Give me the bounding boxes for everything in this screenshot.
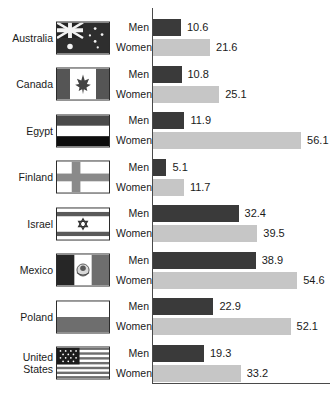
bar-women	[153, 318, 291, 335]
series-label-women: Women	[116, 272, 149, 289]
bar-value-women: 52.1	[297, 318, 318, 335]
bar-value-men: 38.9	[262, 252, 283, 269]
chart-row: IsraelMen32.4Women39.5	[0, 200, 332, 247]
series-label-men: Men	[116, 112, 149, 129]
chart-row: EgyptMen11.9Women56.1	[0, 107, 332, 154]
series-label-men: Men	[116, 298, 149, 315]
bar-line-women: Women52.1	[116, 318, 332, 335]
flag-mexico-icon	[56, 254, 110, 287]
series-label-men: Men	[116, 252, 149, 269]
bar-line-men: Men5.1	[116, 159, 332, 176]
country-label: United States	[0, 351, 53, 375]
chart-row: MexicoMen38.9Women54.6	[0, 247, 332, 294]
bar-line-men: Men19.3	[116, 345, 332, 362]
bar-group: Men32.4Women39.5	[116, 200, 332, 247]
country-label: Finland	[0, 171, 53, 183]
bar-value-men: 5.1	[172, 159, 187, 176]
bar-value-men: 10.8	[188, 66, 209, 83]
bar-men	[153, 112, 184, 129]
bar-women	[153, 225, 257, 242]
series-label-women: Women	[116, 39, 149, 56]
bar-women	[153, 179, 184, 196]
flag-united-states-icon	[56, 347, 110, 380]
country-label: Egypt	[0, 125, 53, 137]
chart-row: FinlandMen5.1Women11.7	[0, 154, 332, 201]
bar-group: Men38.9Women54.6	[116, 247, 332, 294]
series-label-women: Women	[116, 132, 149, 149]
bar-line-women: Women56.1	[116, 132, 332, 149]
bar-value-women: 39.5	[263, 225, 284, 242]
bar-line-women: Women54.6	[116, 272, 332, 289]
chart-row: CanadaMen10.8Women25.1	[0, 61, 332, 108]
bar-women	[153, 272, 297, 289]
flag-egypt-icon	[56, 114, 110, 147]
chart-row: PolandMen22.9Women52.1	[0, 293, 332, 340]
series-label-men: Men	[116, 205, 149, 222]
bar-line-men: Men22.9	[116, 298, 332, 315]
bar-women	[153, 39, 210, 56]
series-label-women: Women	[116, 365, 149, 382]
series-label-men: Men	[116, 345, 149, 362]
series-label-women: Women	[116, 179, 149, 196]
bar-line-women: Women11.7	[116, 179, 332, 196]
bar-men	[153, 66, 182, 83]
bar-group: Men10.6Women21.6	[116, 14, 332, 61]
country-label: Mexico	[0, 264, 53, 276]
flag-canada-icon	[56, 68, 110, 101]
bar-value-women: 21.6	[216, 39, 237, 56]
series-label-men: Men	[116, 66, 149, 83]
bar-women	[153, 365, 241, 382]
series-label-women: Women	[116, 318, 149, 335]
bar-value-men: 19.3	[210, 345, 231, 362]
series-label-women: Women	[116, 225, 149, 242]
bar-women	[153, 132, 301, 149]
bar-line-men: Men10.8	[116, 66, 332, 83]
series-label-men: Men	[116, 19, 149, 36]
bar-group: Men10.8Women25.1	[116, 61, 332, 108]
flag-israel-icon	[56, 207, 110, 240]
bar-men	[153, 298, 213, 315]
chart-row: United StatesMen19.3Women33.2	[0, 340, 332, 387]
bar-line-men: Men32.4	[116, 205, 332, 222]
series-label-men: Men	[116, 159, 149, 176]
country-label: Australia	[0, 32, 53, 44]
bar-line-men: Men10.6	[116, 19, 332, 36]
flag-finland-icon	[56, 161, 110, 194]
bar-group: Men5.1Women11.7	[116, 154, 332, 201]
flag-australia-icon	[56, 21, 110, 54]
bar-line-women: Women25.1	[116, 86, 332, 103]
bar-men	[153, 19, 181, 36]
bar-value-women: 11.7	[190, 179, 211, 196]
bar-value-men: 11.9	[190, 112, 211, 129]
bar-value-men: 10.6	[187, 19, 208, 36]
country-label: Canada	[0, 78, 53, 90]
bar-group: Men11.9Women56.1	[116, 107, 332, 154]
bar-line-men: Men38.9	[116, 252, 332, 269]
bar-value-women: 25.1	[225, 86, 246, 103]
bar-group: Men19.3Women33.2	[116, 340, 332, 387]
bar-group: Men22.9Women52.1	[116, 293, 332, 340]
bar-men	[153, 252, 256, 269]
bar-line-women: Women21.6	[116, 39, 332, 56]
country-label: Israel	[0, 218, 53, 230]
bar-value-men: 32.4	[245, 205, 266, 222]
bar-women	[153, 86, 219, 103]
country-label: Poland	[0, 311, 53, 323]
grouped-bar-chart: AustraliaMen10.6Women21.6CanadaMen10.8Wo…	[0, 0, 332, 394]
chart-row: AustraliaMen10.6Women21.6	[0, 14, 332, 61]
bar-men	[153, 159, 166, 176]
bar-value-women: 33.2	[247, 365, 268, 382]
bar-line-women: Women39.5	[116, 225, 332, 242]
bar-line-women: Women33.2	[116, 365, 332, 382]
flag-poland-icon	[56, 300, 110, 333]
bar-value-men: 22.9	[219, 298, 240, 315]
series-label-women: Women	[116, 86, 149, 103]
bar-men	[153, 345, 204, 362]
bar-value-women: 54.6	[303, 272, 324, 289]
bar-value-women: 56.1	[307, 132, 328, 149]
bar-men	[153, 205, 239, 222]
bar-line-men: Men11.9	[116, 112, 332, 129]
